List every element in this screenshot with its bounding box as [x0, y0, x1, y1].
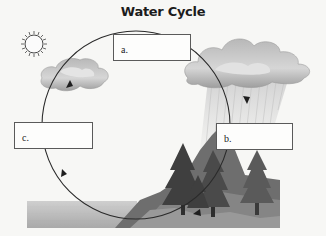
- label-b-letter: b.: [224, 133, 232, 144]
- sun-icon: [21, 31, 47, 57]
- label-box-c[interactable]: c.: [14, 122, 93, 149]
- label-box-b[interactable]: b.: [216, 123, 293, 150]
- label-a-letter: a.: [121, 44, 128, 55]
- rain-cloud-icon: [185, 39, 310, 88]
- label-box-a[interactable]: a.: [113, 34, 191, 61]
- label-c-letter: c.: [22, 132, 29, 143]
